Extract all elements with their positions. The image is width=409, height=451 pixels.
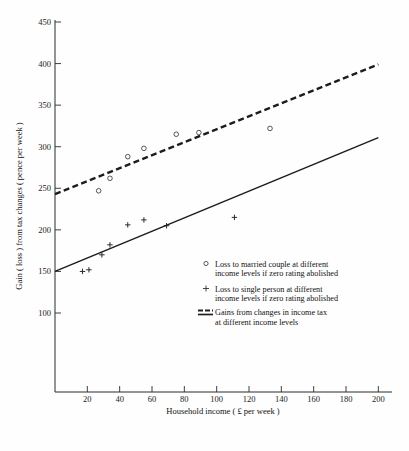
data-point-plus — [86, 267, 91, 272]
legend-entry-2-line-1: Loss to single person at different — [215, 285, 323, 294]
x-tick-label-100: 100 — [210, 394, 223, 404]
legend-entry-1-line-2: income levels if zero rating abolished — [215, 269, 338, 278]
y-axis-title: Gain ( loss ) from tax changes ( pence p… — [14, 122, 24, 290]
data-point-plus — [141, 217, 146, 222]
y-tick-label-300: 300 — [38, 142, 51, 152]
data-series-layer — [55, 64, 378, 274]
x-axis-title: Household income ( £ per week ) — [166, 406, 279, 416]
y-tick-label-450: 450 — [38, 17, 51, 27]
x-tick-label-180: 180 — [340, 394, 353, 404]
data-point-open-circle — [197, 130, 202, 135]
x-tick-label-120: 120 — [243, 394, 256, 404]
data-point-open-circle — [268, 126, 273, 131]
data-point-plus — [125, 222, 130, 227]
chart-legend: Loss to married couple at different inco… — [198, 260, 338, 327]
y-tick-label-350: 350 — [38, 100, 51, 110]
axes — [55, 20, 392, 392]
legend-entry-1-line-1: Loss to married couple at different — [215, 260, 329, 269]
trend-line-dashed — [55, 64, 378, 194]
series-1 — [80, 215, 237, 274]
data-point-open-circle — [174, 132, 179, 137]
y-tick-label-200: 200 — [38, 225, 51, 235]
data-point-plus — [232, 215, 237, 220]
x-tick-label-200: 200 — [372, 394, 385, 404]
legend-plus-icon — [203, 286, 209, 292]
y-tick-label-400: 400 — [38, 59, 51, 69]
data-point-open-circle — [96, 188, 101, 193]
x-tick-label-160: 160 — [307, 394, 320, 404]
legend-entry-2-line-2: income levels if zero rating abolished — [215, 294, 338, 303]
x-tick-label-80: 80 — [180, 394, 189, 404]
data-point-plus — [107, 242, 112, 247]
x-axis-ticks: 20406080100120140160180200 — [83, 386, 385, 404]
data-point-open-circle — [125, 154, 130, 159]
x-tick-label-140: 140 — [275, 394, 288, 404]
legend-entry-3-line-1: Gains from changes in income tax — [215, 308, 327, 317]
tax-changes-scatter-chart: 100150200250300350400450 204060801001201… — [0, 0, 409, 451]
series-2 — [55, 64, 378, 194]
x-tick-label-20: 20 — [83, 394, 92, 404]
y-axis-ticks: 100150200250300350400450 — [38, 17, 61, 318]
legend-double-line-icon — [198, 311, 213, 315]
data-point-open-circle — [142, 146, 147, 151]
x-tick-label-60: 60 — [148, 394, 157, 404]
x-tick-label-40: 40 — [115, 394, 124, 404]
data-point-plus — [80, 269, 85, 274]
legend-entry-3-line-2: at different income levels — [215, 318, 298, 327]
chart-container: 100150200250300350400450 204060801001201… — [0, 0, 409, 451]
series-3 — [55, 138, 378, 272]
y-tick-label-150: 150 — [38, 266, 51, 276]
series-0 — [96, 126, 272, 193]
trend-line-solid — [55, 138, 378, 272]
data-point-open-circle — [108, 176, 113, 181]
y-tick-label-100: 100 — [38, 308, 51, 318]
y-tick-label-250: 250 — [38, 183, 51, 193]
legend-open-circle-icon — [204, 261, 208, 265]
